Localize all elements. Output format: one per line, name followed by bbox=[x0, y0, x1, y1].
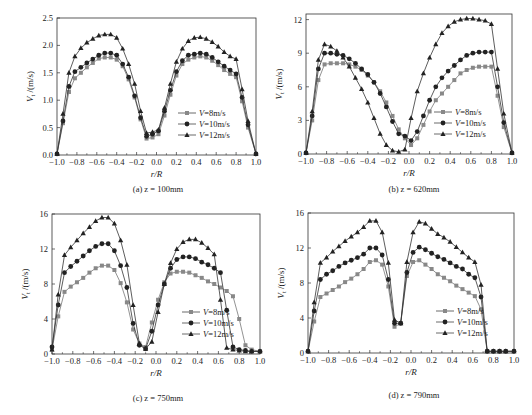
square-marker bbox=[461, 287, 465, 291]
x-tick-label: 0.8 bbox=[234, 356, 245, 366]
chart-panel-b: −1.0−0.8−0.6−0.4−0.20.00.20.40.60.81.003… bbox=[266, 0, 532, 204]
y-tick-label: 0.5 bbox=[42, 123, 53, 133]
circle-marker bbox=[433, 84, 438, 89]
square-marker bbox=[186, 58, 190, 62]
legend-label: V=12m/s bbox=[199, 130, 230, 140]
x-axis-label: r/R bbox=[151, 169, 163, 179]
square-marker bbox=[477, 65, 481, 69]
chart-a-title: (a) z = 100mm bbox=[58, 184, 258, 194]
circle-marker bbox=[100, 241, 105, 246]
legend-item: V=8m/s bbox=[178, 108, 226, 118]
circle-marker bbox=[193, 256, 198, 261]
circle-marker bbox=[206, 262, 211, 267]
series-square bbox=[50, 264, 262, 354]
legend-label: V=8m/s bbox=[455, 107, 482, 117]
square-marker bbox=[483, 65, 487, 69]
circle-marker bbox=[378, 91, 383, 96]
triangle-marker bbox=[106, 215, 111, 220]
legend-item: V=10m/s bbox=[182, 318, 234, 328]
square-marker bbox=[343, 280, 347, 284]
legend-item: V=8m/s bbox=[436, 306, 484, 316]
x-tick-label: 0.8 bbox=[486, 156, 497, 166]
circle-marker bbox=[322, 51, 327, 56]
square-marker bbox=[243, 343, 247, 347]
circle-marker bbox=[365, 72, 370, 77]
triangle-marker bbox=[421, 71, 426, 76]
triangle-marker bbox=[472, 259, 477, 264]
chart-a-svg: −1.0−0.8−0.6−0.4−0.20.00.20.40.60.81.00.… bbox=[0, 0, 266, 200]
circle-marker bbox=[404, 270, 409, 275]
circle-marker bbox=[380, 253, 385, 258]
square-marker bbox=[112, 268, 116, 272]
square-marker bbox=[109, 55, 113, 59]
triangle-marker bbox=[440, 131, 445, 136]
circle-marker bbox=[108, 51, 113, 56]
circle-marker bbox=[328, 51, 333, 56]
triangle-marker bbox=[205, 245, 210, 250]
circle-marker bbox=[454, 264, 459, 269]
x-tick-label: 1.0 bbox=[507, 156, 518, 166]
triangle-marker bbox=[373, 218, 378, 223]
circle-marker bbox=[106, 241, 111, 246]
square-marker bbox=[434, 98, 438, 102]
square-marker bbox=[69, 285, 73, 289]
square-marker bbox=[181, 270, 185, 274]
triangle-marker bbox=[466, 255, 471, 260]
y-tick-label: 8 bbox=[300, 278, 304, 288]
chart-c-svg: −1.0−0.8−0.6−0.4−0.20.00.20.40.60.81.004… bbox=[0, 200, 266, 400]
circle-marker bbox=[489, 50, 494, 55]
circle-marker bbox=[402, 134, 407, 139]
triangle-marker bbox=[359, 86, 364, 91]
triangle-marker bbox=[353, 75, 358, 80]
triangle-marker bbox=[460, 250, 465, 255]
triangle-marker bbox=[102, 32, 107, 37]
square-marker bbox=[329, 61, 333, 65]
circle-marker bbox=[187, 254, 192, 259]
square-marker bbox=[62, 290, 66, 294]
legend-label: V=12m/s bbox=[457, 328, 488, 338]
x-tick-label: −0.6 bbox=[89, 157, 104, 167]
legend-item: V=12m/s bbox=[182, 329, 234, 339]
y-tick-label: 0 bbox=[300, 348, 304, 358]
square-marker bbox=[200, 276, 204, 280]
triangle-marker bbox=[193, 237, 198, 242]
circle-marker bbox=[472, 275, 477, 280]
chart-b-svg: −1.0−0.8−0.6−0.4−0.20.00.20.40.60.81.003… bbox=[266, 0, 532, 200]
y-tick-label: 2.0 bbox=[42, 40, 53, 50]
square-marker bbox=[428, 109, 432, 113]
legend-label: V=12m/s bbox=[203, 329, 234, 339]
legend-label: V=10m/s bbox=[455, 118, 486, 128]
triangle-marker bbox=[349, 234, 354, 239]
square-marker bbox=[441, 110, 445, 114]
triangle-marker bbox=[66, 70, 71, 75]
circle-marker bbox=[75, 259, 80, 264]
triangle-marker bbox=[378, 131, 383, 136]
circle-marker bbox=[483, 50, 488, 55]
triangle-marker bbox=[330, 249, 335, 254]
circle-marker bbox=[124, 285, 129, 290]
legend-label: V=10m/s bbox=[199, 119, 230, 129]
y-axis-label: Vt /(m/s) bbox=[274, 69, 285, 100]
triangle-marker bbox=[322, 41, 327, 46]
triangle-marker bbox=[448, 239, 453, 244]
triangle-marker bbox=[228, 54, 233, 59]
square-marker bbox=[335, 61, 339, 65]
triangle-marker bbox=[216, 44, 221, 49]
x-tick-label: −0.6 bbox=[339, 156, 354, 166]
circle-marker bbox=[210, 55, 215, 60]
circle-marker bbox=[361, 252, 366, 257]
legend-item: V=12m/s bbox=[436, 328, 488, 338]
triangle-marker bbox=[199, 240, 204, 245]
y-tick-label: 12 bbox=[294, 15, 303, 25]
circle-marker bbox=[415, 129, 420, 134]
circle-marker bbox=[78, 65, 83, 70]
square-marker bbox=[212, 282, 216, 286]
triangle-marker bbox=[367, 218, 372, 223]
triangle-marker bbox=[429, 226, 434, 231]
square-marker bbox=[325, 292, 329, 296]
square-marker bbox=[440, 92, 444, 96]
triangle-marker bbox=[118, 237, 123, 242]
triangle-marker bbox=[187, 237, 192, 242]
y-axis-label: Vt /(m/s) bbox=[276, 268, 287, 299]
y-tick-label: 4 bbox=[44, 314, 49, 324]
